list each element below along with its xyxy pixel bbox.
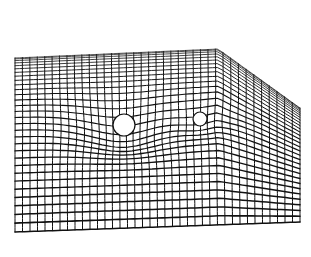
grid-line: [15, 121, 300, 152]
grid-line: [15, 86, 300, 132]
spheres: [113, 112, 207, 136]
grid-line: [37, 57, 38, 231]
grid-line: [15, 113, 300, 147]
grid-line: [15, 52, 300, 110]
grid-line: [277, 91, 278, 222]
grid-line: [45, 57, 46, 231]
grid-line: [15, 92, 300, 136]
large-sphere-icon: [113, 114, 135, 136]
curved-grid-mesh: [0, 0, 311, 257]
small-sphere-icon: [193, 112, 207, 126]
grid-line: [15, 60, 300, 115]
figure: Perspective wireframe grid sheet warped …: [0, 0, 311, 257]
grid-lines: [15, 49, 300, 232]
